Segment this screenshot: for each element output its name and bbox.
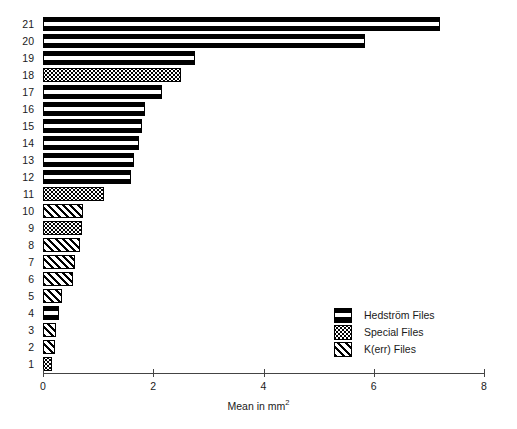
x-tick-label-8: 8 [464,381,504,392]
legend-label-hedstrom: Hedström Files [364,310,435,321]
legend-swatch-special [334,325,352,340]
bar-16 [43,102,145,116]
bar-15 [43,119,142,133]
y-tick-label-1: 1 [0,359,34,370]
y-tick-label-3: 3 [0,325,34,336]
x-tick-label-0: 0 [23,381,63,392]
bar-6 [43,272,73,286]
x-tick-label-6: 6 [354,381,394,392]
y-tick-label-19: 19 [0,53,34,64]
bar-21 [43,17,440,31]
bar-18 [43,68,181,82]
legend-label-kerr: K(err) Files [364,344,416,355]
bar-19 [43,51,195,65]
bar-4 [43,306,59,320]
y-tick-label-8: 8 [0,240,34,251]
bar-5 [43,289,62,303]
y-tick-label-21: 21 [0,19,34,30]
y-tick-label-12: 12 [0,172,34,183]
x-tick-8 [484,369,485,377]
bar-12 [43,170,131,184]
bar-8 [43,238,80,252]
bar-2 [43,340,55,354]
x-tick-2 [153,369,154,377]
x-tick-4 [264,369,265,377]
bar-chart: 212019181716151413121110987654321 02468 … [0,0,517,429]
legend-swatch-kerr [334,342,352,357]
y-tick-label-16: 16 [0,104,34,115]
bar-11 [43,187,104,201]
y-tick-label-5: 5 [0,291,34,302]
bar-17 [43,85,162,99]
bar-10 [43,204,83,218]
bar-20 [43,34,365,48]
y-tick-label-9: 9 [0,223,34,234]
y-tick-label-6: 6 [0,274,34,285]
bar-3 [43,323,56,337]
bar-1 [43,357,52,371]
legend-label-special: Special Files [364,327,424,338]
bar-7 [43,255,75,269]
x-tick-label-2: 2 [133,381,173,392]
y-tick-label-18: 18 [0,70,34,81]
x-axis-title: Mean in mm2 [0,398,517,412]
y-tick-label-10: 10 [0,206,34,217]
y-tick-label-2: 2 [0,342,34,353]
legend-swatch-hedstrom [334,308,352,323]
y-tick-label-7: 7 [0,257,34,268]
bar-9 [43,221,82,235]
y-tick-label-4: 4 [0,308,34,319]
x-tick-0 [43,369,44,377]
y-tick-label-20: 20 [0,36,34,47]
x-tick-label-4: 4 [244,381,284,392]
y-tick-label-13: 13 [0,155,34,166]
y-tick-label-14: 14 [0,138,34,149]
y-tick-label-15: 15 [0,121,34,132]
bar-14 [43,136,139,150]
x-tick-6 [374,369,375,377]
y-tick-label-11: 11 [0,189,34,200]
y-tick-label-17: 17 [0,87,34,98]
bar-13 [43,153,134,167]
